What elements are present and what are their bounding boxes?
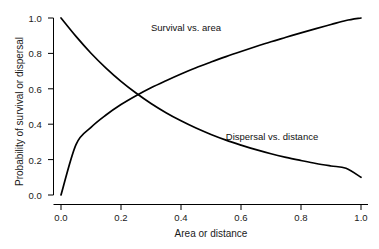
x-axis-ticks <box>61 205 361 211</box>
figure-canvas: 1.0 0.8 0.6 0.4 0.2 0.0 0.0 0.2 0.4 0.6 … <box>0 0 379 249</box>
y-axis-title: Probability of survival or dispersal <box>14 17 25 207</box>
x-tick-label-1.0: 1.0 <box>354 212 368 223</box>
x-tick-label-0.8: 0.8 <box>294 212 308 223</box>
x-tick-label-0.4: 0.4 <box>174 212 188 223</box>
annotation-survival-vs-area: Survival vs. area <box>151 22 221 33</box>
x-tick-label-0.2: 0.2 <box>114 212 128 223</box>
curve-survival-vs-area <box>61 18 361 195</box>
y-axis-ticks <box>48 18 54 195</box>
annotation-dispersal-vs-distance: Dispersal vs. distance <box>226 131 318 142</box>
x-axis-title: Area or distance <box>175 228 248 239</box>
x-tick-label-0.6: 0.6 <box>234 212 248 223</box>
curve-dispersal-vs-distance <box>61 18 361 177</box>
x-tick-label-0.0: 0.0 <box>54 212 68 223</box>
